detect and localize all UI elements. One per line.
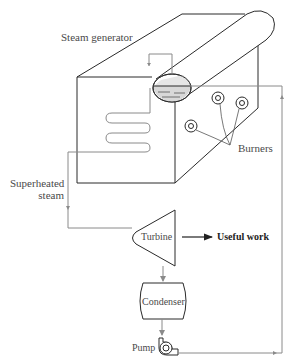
steam-plant-diagram: Turbine Useful work Condenser Pump Steam… [0,0,293,364]
condenser-label: Condenser [142,296,185,307]
superheated-steam-label-line2: steam [10,189,64,201]
burner-icon [212,92,224,104]
burner-icon [185,120,197,132]
superheated-steam-label-line1: Superheated [10,177,64,189]
burner-icon [236,97,248,109]
turbine-label: Turbine [141,231,173,242]
steam-drum [153,11,274,102]
superheater-coil [68,88,150,228]
burners-label: Burners [238,142,273,154]
burners [185,92,248,145]
useful-work-label: Useful work [217,231,269,242]
pump-label: Pump [132,342,155,353]
steam-generator-label: Steam generator [61,31,133,43]
pump-icon [159,338,178,355]
